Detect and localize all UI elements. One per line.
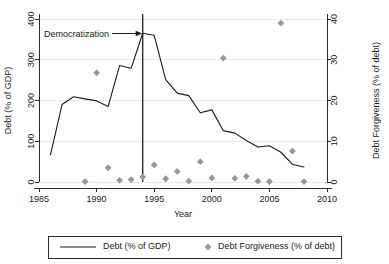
left-tick-label: 400	[26, 11, 36, 26]
chart-background	[0, 0, 389, 264]
chart-figure: 0100200300400 010203040 1985199019952000…	[0, 0, 389, 264]
x-tick-label: 1985	[29, 194, 49, 204]
left-tick-label: 300	[26, 52, 36, 67]
legend-label-debt: Debt (% of GDP)	[103, 241, 171, 251]
right-tick-label: 10	[329, 136, 339, 146]
y2-axis-label: Debt Forgiveness (% of debt)	[371, 42, 381, 159]
y-axis-label: Debt (% of GDP)	[3, 67, 13, 135]
right-tick-label: 20	[329, 95, 339, 105]
x-axis-label: Year	[174, 209, 192, 219]
left-tick-label: 100	[26, 134, 36, 149]
x-tick-label: 1990	[87, 194, 107, 204]
left-tick-label: 0	[26, 179, 36, 184]
left-tick-label: 200	[26, 93, 36, 108]
x-tick-label: 2005	[259, 194, 279, 204]
x-tick-label: 2000	[202, 194, 222, 204]
x-tick-label: 1995	[144, 194, 164, 204]
annotation-label: Democratization	[44, 29, 109, 39]
right-tick-label: 40	[329, 14, 339, 24]
right-tick-label: 0	[329, 179, 339, 184]
x-tick-label: 2010	[317, 194, 337, 204]
chart-legend: Debt (% of GDP) Debt Forgiveness (% of d…	[48, 236, 341, 258]
legend-label-debt-forgiveness: Debt Forgiveness (% of debt)	[218, 241, 335, 251]
right-tick-label: 30	[329, 55, 339, 65]
debt-and-debt-forgiveness-chart: 0100200300400 010203040 1985199019952000…	[0, 0, 389, 264]
